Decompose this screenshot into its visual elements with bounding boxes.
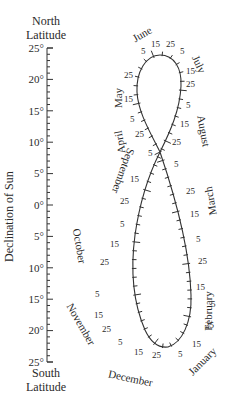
day-jan-25: 25 [205,321,214,330]
day-jan-5: 5 [178,350,183,359]
day-feb-25: 25 [198,257,207,266]
day-jan-15: 15 [192,340,201,349]
day-june-25: 25 [166,40,175,49]
day-oct-25: 25 [100,258,109,267]
day-nov-15: 15 [94,311,103,320]
day-may-15: 15 [124,95,133,104]
day-aug-15: 15 [180,120,189,129]
day-apr-25: 25 [135,130,144,139]
day-dec-15: 15 [134,348,143,357]
day-oct-5: 5 [120,220,125,229]
day-dec-25: 25 [152,351,161,360]
day-feb-5: 5 [211,300,216,309]
day-dec-5: 5 [118,338,123,347]
day-oct-15: 15 [110,240,119,249]
day-july-25: 25 [186,80,195,89]
date-ticks [132,51,192,348]
day-aug-25: 25 [172,138,181,147]
day-may-25: 25 [124,71,133,80]
day-sep-15: 15 [130,175,139,184]
day-sep-25: 25 [120,197,129,206]
day-sep-5: 5 [148,149,153,158]
month-may: May [112,88,124,108]
day-feb-15: 15 [196,283,205,292]
day-mar-5: 5 [196,235,201,244]
day-nov-5: 5 [95,290,100,299]
day-june-15: 15 [151,40,160,49]
day-may-5: 5 [130,115,135,124]
day-july-5: 5 [180,47,185,56]
day-mar-15: 15 [190,210,199,219]
day-mar-25: 25 [186,187,195,196]
analemma-curve [133,55,191,347]
declination-axis [47,48,53,362]
day-mar-5b: 5 [174,160,179,169]
day-july-15: 15 [186,67,195,76]
day-aug-5: 5 [186,101,191,110]
day-nov-25: 25 [102,325,111,334]
day-june-5: 5 [141,47,146,56]
